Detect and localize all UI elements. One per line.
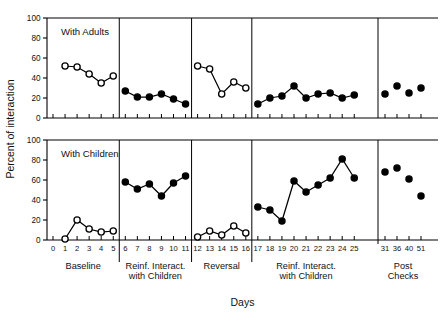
data-point-filled — [303, 95, 309, 101]
y-tick-label: 20 — [31, 94, 41, 103]
y-tick-label: 100 — [27, 136, 41, 145]
data-point-open — [207, 228, 213, 234]
x-tick-label: 17 — [254, 244, 262, 253]
data-point-filled — [255, 204, 261, 210]
y-tick-label: 40 — [31, 74, 41, 83]
data-point-filled — [146, 94, 152, 100]
data-point-open — [62, 236, 68, 242]
data-point-filled — [351, 92, 357, 98]
y-tick-label: 60 — [31, 54, 41, 63]
data-point-open — [231, 223, 237, 229]
data-point-open — [243, 85, 249, 91]
data-point-filled — [291, 178, 297, 184]
x-tick-label: 4 — [99, 244, 103, 253]
series-line — [125, 176, 185, 196]
data-point-filled — [382, 91, 388, 97]
data-point-filled — [394, 165, 400, 171]
phase-label-line2: with Children — [128, 271, 182, 281]
data-point-open — [62, 63, 68, 69]
data-point-filled — [327, 175, 333, 181]
x-axis-title: Days — [231, 296, 255, 308]
data-point-filled — [406, 176, 412, 182]
x-tick-label: 3 — [87, 244, 91, 253]
x-tick-label: 11 — [182, 244, 190, 253]
data-point-filled — [158, 91, 164, 97]
panel-with-children: 020406080100With Children — [27, 136, 438, 245]
data-point-filled — [122, 88, 128, 94]
x-tick-label: 21 — [302, 244, 310, 253]
figure-container: 020406080100With Adults020406080100With … — [0, 0, 445, 312]
data-point-filled — [279, 218, 285, 224]
x-tick-label: 25 — [350, 244, 358, 253]
x-tick-label: 18 — [266, 244, 274, 253]
data-point-open — [98, 229, 104, 235]
x-tick-label: 8 — [147, 244, 151, 253]
data-point-filled — [351, 175, 357, 181]
x-tick-label: 51 — [417, 244, 425, 253]
data-point-filled — [146, 181, 152, 187]
x-tick-label: 19 — [278, 244, 286, 253]
x-tick-label: 24 — [338, 244, 346, 253]
data-point-open — [195, 63, 201, 69]
y-axis-title: Percent of interaction — [4, 79, 16, 178]
x-tick-label: 6 — [123, 244, 127, 253]
data-point-filled — [303, 189, 309, 195]
data-point-filled — [182, 101, 188, 107]
y-tick-label: 0 — [36, 114, 41, 123]
x-tick-label: 36 — [393, 244, 401, 253]
data-point-filled — [418, 85, 424, 91]
x-tick-label: 1 — [63, 244, 67, 253]
data-point-open — [98, 80, 104, 86]
x-tick-label: 23 — [326, 244, 334, 253]
x-tick-label: 13 — [205, 244, 213, 253]
data-point-filled — [406, 90, 412, 96]
data-point-filled — [158, 193, 164, 199]
data-point-open — [219, 91, 225, 97]
data-point-filled — [418, 193, 424, 199]
data-point-open — [219, 232, 225, 238]
data-point-open — [243, 230, 249, 236]
data-point-open — [207, 66, 213, 72]
data-point-filled — [182, 173, 188, 179]
data-point-filled — [255, 101, 261, 107]
y-tick-label: 0 — [36, 236, 41, 245]
phase-label: Post — [394, 261, 413, 271]
x-tick-label: 16 — [242, 244, 250, 253]
data-point-filled — [327, 90, 333, 96]
y-tick-label: 20 — [31, 216, 41, 225]
data-point-open — [231, 79, 237, 85]
phase-label: Reinf. Interact. — [126, 261, 186, 271]
data-point-filled — [279, 93, 285, 99]
data-point-filled — [291, 83, 297, 89]
data-point-open — [74, 217, 80, 223]
data-point-filled — [382, 169, 388, 175]
data-point-filled — [339, 156, 345, 162]
interaction-percent-chart: 020406080100With Adults020406080100With … — [0, 0, 445, 312]
phase-label: Reversal — [204, 261, 240, 271]
y-tick-label: 80 — [31, 156, 41, 165]
panel-with-adults: 020406080100With Adults — [27, 14, 438, 123]
x-tick-label: 5 — [111, 244, 115, 253]
data-point-filled — [134, 94, 140, 100]
data-point-open — [110, 228, 116, 234]
phase-label: Baseline — [66, 261, 101, 271]
data-point-filled — [315, 91, 321, 97]
data-point-filled — [315, 182, 321, 188]
series-line — [198, 66, 246, 94]
x-tick-label: 31 — [381, 244, 389, 253]
x-tick-label: 12 — [193, 244, 201, 253]
x-tick-label: 15 — [230, 244, 238, 253]
x-tick-label: 0 — [51, 244, 55, 253]
data-point-filled — [339, 95, 345, 101]
x-tick-label: 2 — [75, 244, 79, 253]
data-point-filled — [394, 83, 400, 89]
data-point-filled — [170, 96, 176, 102]
data-point-filled — [134, 186, 140, 192]
data-point-filled — [122, 179, 128, 185]
x-tick-label: 9 — [159, 244, 163, 253]
x-tick-label: 22 — [314, 244, 322, 253]
y-tick-label: 80 — [31, 34, 41, 43]
data-point-filled — [267, 95, 273, 101]
x-tick-label: 20 — [290, 244, 298, 253]
panel-title: With Adults — [61, 26, 109, 37]
